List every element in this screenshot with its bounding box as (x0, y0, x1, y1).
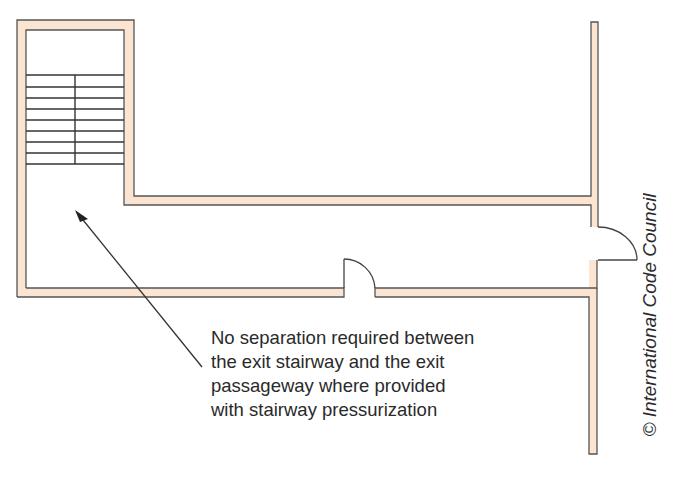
copyright-credit: © International Code Council (639, 193, 661, 436)
stairway (26, 75, 124, 164)
corridor-door-icon (344, 259, 375, 288)
end-door-icon (598, 227, 637, 260)
annotation-line: No separation required between (211, 326, 531, 350)
annotation-line: passageway where provided (211, 374, 531, 398)
annotation-text: No separation required between the exit … (211, 326, 531, 422)
annotation-line: the exit stairway and the exit (211, 350, 531, 374)
annotation-line: with stairway pressurization (211, 398, 531, 422)
